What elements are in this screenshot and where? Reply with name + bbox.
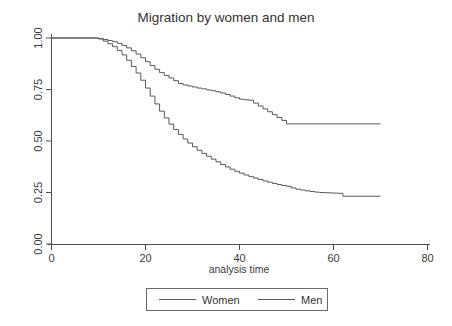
y-axis-ticks: 0.000.250.500.751.00 <box>32 27 52 254</box>
legend-items: WomenMen <box>159 294 322 306</box>
series-curves <box>52 38 381 196</box>
series-line-women <box>52 38 381 196</box>
y-tick-label: 0.75 <box>32 79 44 100</box>
chart-legend: WomenMen <box>147 289 328 311</box>
y-tick-label: 0.00 <box>32 233 44 254</box>
y-tick-label: 1.00 <box>32 27 44 48</box>
chart-canvas: Migration by women and men 0.000.250.500… <box>0 0 452 326</box>
x-tick-label: 60 <box>327 252 339 264</box>
x-axis-title: analysis time <box>209 263 270 275</box>
y-axis: 0.000.250.500.751.00 <box>32 27 52 254</box>
chart-title: Migration by women and men <box>137 10 314 25</box>
x-axis: 020406080 analysis time <box>48 245 434 276</box>
x-tick-label: 20 <box>139 252 151 264</box>
legend-label-women[interactable]: Women <box>202 294 240 306</box>
x-axis-ticks: 020406080 <box>48 245 433 265</box>
y-tick-label: 0.25 <box>32 182 44 203</box>
legend-label-men[interactable]: Men <box>301 294 322 306</box>
series-line-men <box>52 38 381 124</box>
survival-chart: Migration by women and men 0.000.250.500… <box>0 0 452 326</box>
x-tick-label: 0 <box>48 252 54 264</box>
y-tick-label: 0.50 <box>32 130 44 151</box>
x-tick-label: 80 <box>421 252 433 264</box>
